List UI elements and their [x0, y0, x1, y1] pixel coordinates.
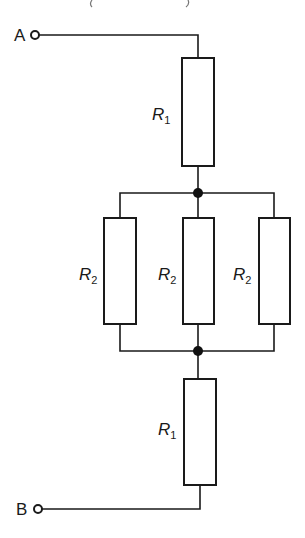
resistor-label: R1	[158, 420, 176, 441]
resistor-body	[182, 58, 214, 166]
cropped-paren-right	[186, 0, 189, 7]
resistor-body	[259, 218, 290, 324]
resistor-label: R1	[152, 105, 170, 126]
cropped-paren-left	[91, 0, 93, 7]
wire-r1-to-b	[42, 485, 200, 509]
resistor-body	[184, 379, 216, 485]
resistor-r1-bottom: R1	[158, 379, 216, 485]
resistor-label: R2	[233, 265, 251, 286]
resistor-label: R2	[79, 265, 97, 286]
wire-a-to-r1	[39, 35, 198, 58]
resistor-r2-middle: R2	[158, 218, 214, 324]
junction-top	[193, 188, 203, 198]
resistor-body	[104, 218, 136, 324]
circuit-diagram: A R1 R2 R2 R2 R1 B	[0, 0, 305, 538]
resistor-body	[183, 218, 214, 324]
terminal-a: A	[14, 26, 39, 45]
terminal-b: B	[16, 500, 42, 519]
resistor-r2-right: R2	[233, 218, 290, 324]
terminal-a-label: A	[14, 26, 26, 45]
resistor-r1-top: R1	[152, 58, 214, 166]
terminal-b-node	[34, 505, 42, 513]
resistor-r2-left: R2	[79, 218, 136, 324]
resistor-label: R2	[158, 265, 176, 286]
terminal-b-label: B	[16, 500, 27, 519]
junction-bottom	[193, 346, 203, 356]
terminal-a-node	[31, 31, 39, 39]
